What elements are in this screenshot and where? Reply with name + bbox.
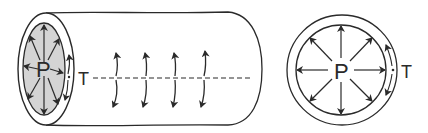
tension-point-right [392, 69, 395, 72]
tension-point-left [68, 76, 70, 78]
pressure-label-left: P [36, 57, 51, 82]
pressure-tension-diagram: P T [0, 0, 428, 133]
tension-label-right: T [401, 62, 412, 82]
circumferential-tension-arrows [113, 51, 206, 107]
tension-label-left: T [78, 69, 89, 89]
cylinder-view: P T [18, 12, 262, 126]
cross-section-view: P T [287, 15, 412, 125]
pressure-label-right: P [334, 59, 349, 84]
